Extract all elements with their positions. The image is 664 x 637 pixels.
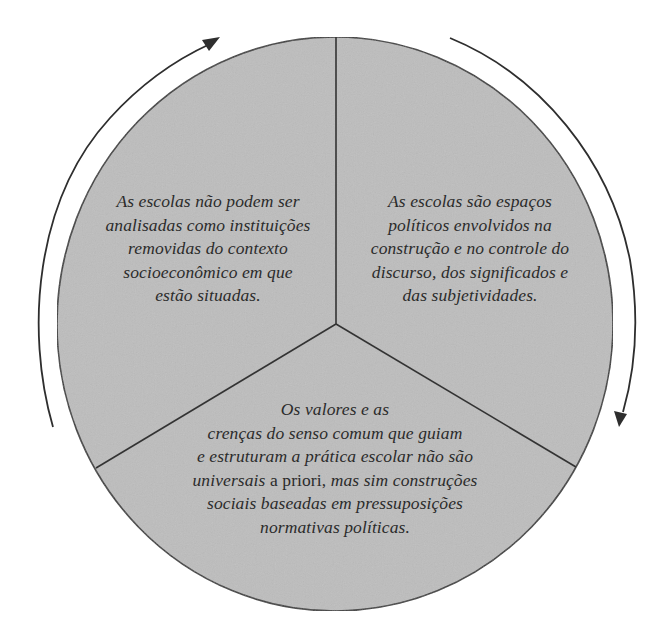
- text-line: Os valores e as: [160, 398, 510, 422]
- text-line: sociais baseadas em pressuposições: [160, 492, 510, 516]
- text-line: socioeconômico em que: [92, 261, 324, 285]
- text-line: construção e no controle do: [352, 237, 588, 261]
- segment-text-bottom: Os valores e as crenças do senso comum q…: [160, 398, 510, 539]
- text-line: estão situadas.: [92, 284, 324, 308]
- segment-text-top-left: As escolas não podem ser analisadas como…: [92, 190, 324, 308]
- text-fragment: universais: [193, 470, 266, 490]
- text-line: e estruturam a prática escolar não são: [160, 445, 510, 469]
- text-line: removidas do contexto: [92, 237, 324, 261]
- text-line: crenças do senso comum que guiam: [160, 422, 510, 446]
- arrowhead-up-icon: [202, 37, 220, 51]
- text-line: das subjetividades.: [352, 284, 588, 308]
- arrowhead-down-icon: [614, 411, 627, 427]
- latin-term-a-priori: a priori,: [270, 470, 326, 490]
- cycle-diagram: [0, 0, 664, 637]
- text-line: políticos envolvidos na: [352, 214, 588, 238]
- text-line: analisadas como instituições: [92, 214, 324, 238]
- text-line: discurso, dos significados e: [352, 261, 588, 285]
- text-line: normativas políticas.: [160, 516, 510, 540]
- segment-text-top-right: As escolas são espaços políticos envolvi…: [352, 190, 588, 308]
- text-line: As escolas são espaços: [352, 190, 588, 214]
- text-line: As escolas não podem ser: [92, 190, 324, 214]
- text-fragment: mas sim construções: [331, 470, 478, 490]
- text-line-mixed: universais a priori, mas sim construções: [160, 469, 510, 493]
